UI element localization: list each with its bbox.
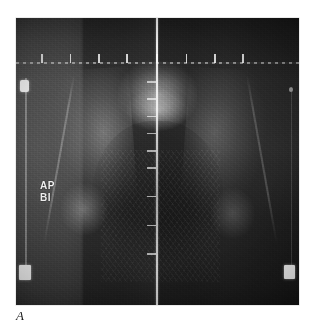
reference-tick-horizontal [242,54,244,63]
right-table-rail [291,87,293,268]
reference-tick-horizontal [186,54,188,63]
reference-tick-horizontal [70,54,72,63]
calibration-marker-right-bottom [284,265,295,279]
calibration-marker-left-bottom [19,265,31,280]
reference-tick-vertical [147,81,156,83]
reference-tick-vertical [147,150,156,152]
horizontal-reference-line [16,62,299,64]
dxa-scan-image: AP BI [16,18,299,305]
figure-panel-label: A [16,308,24,324]
left-table-rail [25,78,27,270]
crosshatch-artifact [101,150,220,282]
reference-tick-horizontal [98,54,100,63]
scan-annotation-line-1: AP [40,180,55,192]
reference-tick-vertical [147,225,156,227]
reference-tick-horizontal [156,54,158,63]
reference-tick-vertical [147,196,156,198]
reference-tick-vertical [147,133,156,135]
scan-annotation-line-2: BI [40,192,55,204]
reference-tick-horizontal [214,54,216,63]
reference-tick-vertical [147,116,156,118]
reference-tick-vertical [147,98,156,100]
calibration-marker-left-top [20,80,29,92]
scan-annotation: AP BI [40,180,55,204]
figure-container: AP BI A [0,0,316,325]
reference-tick-vertical [147,253,156,255]
reference-tick-horizontal [126,54,128,63]
reference-tick-horizontal [41,54,43,63]
reference-tick-vertical [147,167,156,169]
